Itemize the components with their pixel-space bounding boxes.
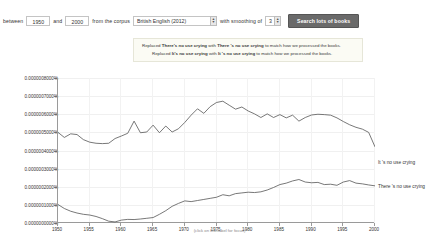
notice-1-replacement: There 's no use crying xyxy=(217,43,263,48)
notice-2-original: It's no use crying xyxy=(172,51,208,56)
y-axis-label: 0.0000006000% xyxy=(25,112,58,117)
chevron-down-icon: ▼ xyxy=(212,21,215,24)
notice-2-replacement: It 's no use crying xyxy=(218,51,255,56)
series-label[interactable]: It 's no use crying xyxy=(378,160,415,165)
query-bar: between 1950 and 2000 from the corpus Br… xyxy=(0,13,439,29)
smoothing-select-wrapper[interactable]: 3 ▲ ▼ xyxy=(265,16,281,26)
series-label[interactable]: There 's no use crying xyxy=(378,183,425,188)
x-axis-tick xyxy=(342,223,343,226)
x-axis-tick xyxy=(247,223,248,226)
x-axis-tick xyxy=(89,223,90,226)
smoothing-label: with smoothing of xyxy=(217,18,265,24)
start-year-input[interactable]: 1950 xyxy=(26,16,50,26)
plot-area[interactable] xyxy=(57,78,374,223)
y-axis-label: 0.0000005000% xyxy=(25,130,58,135)
notice-1-original: There's no use crying xyxy=(162,43,207,48)
series-line[interactable] xyxy=(58,101,375,147)
corpus-label: from the corpus xyxy=(89,18,133,24)
notice-2-pre: Replaced xyxy=(152,51,172,56)
y-axis-label: 0.0000000000% xyxy=(25,221,58,226)
x-axis-tick xyxy=(152,223,153,226)
and-label: and xyxy=(50,18,65,24)
y-axis-label: 0.0000007000% xyxy=(25,94,58,99)
focus-note: (click on line/label for focus) xyxy=(0,228,439,233)
x-axis-tick xyxy=(57,223,58,226)
end-year-input[interactable]: 2000 xyxy=(65,16,89,26)
y-axis-label: 0.0000004000% xyxy=(25,148,58,153)
smoothing-spinner-icon[interactable]: ▲ ▼ xyxy=(274,16,281,26)
x-axis-tick xyxy=(311,223,312,226)
y-axis-label: 0.0000008000% xyxy=(25,76,58,81)
x-axis-tick xyxy=(374,223,375,226)
replacement-notice: Replaced There's no use crying with Ther… xyxy=(133,38,363,62)
notice-1-mid: with xyxy=(207,43,217,48)
notice-1-post: to match how we processed the books. xyxy=(264,43,341,48)
notice-line-1: Replaced There's no use crying with Ther… xyxy=(138,42,358,50)
x-axis-tick xyxy=(216,223,217,226)
x-axis-tick xyxy=(184,223,185,226)
corpus-select-wrapper[interactable]: British English (2012) ▲ ▼ xyxy=(133,16,217,26)
y-axis-label: 0.0000002000% xyxy=(25,184,58,189)
series-lines[interactable] xyxy=(58,78,375,223)
x-axis-tick xyxy=(120,223,121,226)
x-axis-tick xyxy=(279,223,280,226)
series-line[interactable] xyxy=(58,180,375,222)
notice-2-post: to match how we processed the books. xyxy=(255,51,332,56)
ngram-chart[interactable]: 0.0000008000%0.0000007000%0.0000006000%0… xyxy=(0,72,439,232)
y-axis-label: 0.0000001000% xyxy=(25,202,58,207)
corpus-spinner-icon[interactable]: ▲ ▼ xyxy=(210,16,217,26)
notice-line-2: Replaced It's no use crying with It 's n… xyxy=(138,50,358,58)
chevron-down-icon: ▼ xyxy=(276,21,279,24)
notice-2-mid: with xyxy=(208,51,218,56)
corpus-select[interactable]: British English (2012) xyxy=(133,16,217,26)
between-label: between xyxy=(0,18,26,24)
notice-1-pre: Replaced xyxy=(142,43,162,48)
search-button[interactable]: Search lots of books xyxy=(288,14,359,28)
y-axis-label: 0.0000003000% xyxy=(25,166,58,171)
